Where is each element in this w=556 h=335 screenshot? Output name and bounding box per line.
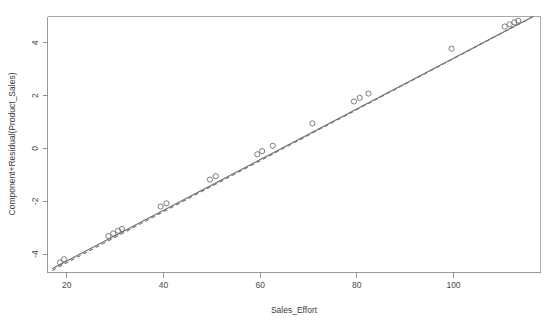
y-tick-label: -2 xyxy=(30,197,40,205)
y-tick-label: 2 xyxy=(30,93,40,98)
y-axis-title: Component+Residual(Product_Sales) xyxy=(7,72,17,215)
component-residual-plot: -4-2024 20406080100 Sales_Effort Compone… xyxy=(0,0,556,335)
x-axis-title: Sales_Effort xyxy=(271,305,318,315)
x-tick-label: 100 xyxy=(446,280,460,290)
y-tick-label: -4 xyxy=(30,250,40,258)
x-tick-label: 40 xyxy=(159,280,169,290)
x-tick-label: 20 xyxy=(62,280,72,290)
x-tick-label: 80 xyxy=(352,280,362,290)
y-tick-label: 0 xyxy=(30,146,40,151)
x-tick-label: 60 xyxy=(255,280,265,290)
y-tick-label: 4 xyxy=(30,40,40,45)
chart-container: -4-2024 20406080100 Sales_Effort Compone… xyxy=(0,0,556,335)
plot-background xyxy=(0,0,556,335)
